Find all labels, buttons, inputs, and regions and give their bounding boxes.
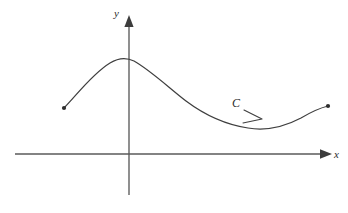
y-axis-label: y bbox=[114, 8, 119, 19]
arrow-up-icon bbox=[124, 15, 133, 27]
x-axis-label: x bbox=[334, 149, 339, 160]
arrow-right-icon bbox=[320, 149, 332, 159]
figure-canvas bbox=[0, 0, 348, 213]
curve-label: C bbox=[232, 97, 240, 109]
curve-start-dot bbox=[62, 106, 66, 110]
curve-c-path bbox=[64, 59, 328, 129]
chevron-right-icon bbox=[243, 110, 262, 123]
curve-end-dot bbox=[326, 104, 330, 108]
curve-figure: y x C bbox=[0, 0, 348, 213]
